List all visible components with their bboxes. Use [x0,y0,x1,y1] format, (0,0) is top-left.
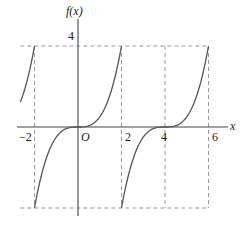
function-graph: f(x) x O 4 −2 2 4 6 [0,0,247,227]
y-tick-label-4: 4 [68,29,74,43]
x-tick-label-neg2: −2 [19,130,32,144]
curve-piece-left [20,46,34,102]
x-axis-label: x [229,119,236,133]
axes [17,19,228,216]
x-tick-label-4: 4 [161,130,167,144]
y-axis-label: f(x) [66,4,83,18]
x-tick-label-2: 2 [125,130,131,144]
origin-label: O [81,130,90,144]
labels: f(x) x O 4 −2 2 4 6 [19,4,236,144]
x-tick-label-6: 6 [212,130,218,144]
